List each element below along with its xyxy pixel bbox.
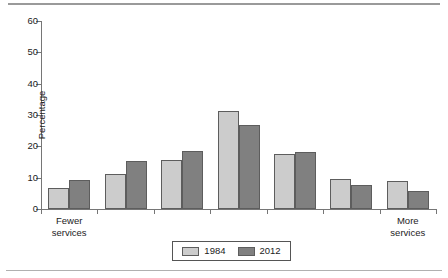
y-tick-label: 40 xyxy=(27,79,38,89)
y-tick-label: 10 xyxy=(27,173,38,183)
legend-swatch-2012 xyxy=(238,247,255,256)
x-category-label-line2: services xyxy=(380,227,436,239)
bar xyxy=(218,111,239,209)
bar-chart-figure: Percentage 0102030405060 FewerservicesMo… xyxy=(0,0,448,278)
bar xyxy=(126,161,147,209)
x-tick-mark xyxy=(210,209,211,214)
plot-area: Percentage 0102030405060 xyxy=(41,21,436,209)
x-axis-line xyxy=(41,209,437,210)
legend-swatch-1984 xyxy=(182,247,199,256)
bar xyxy=(69,180,90,209)
bar xyxy=(182,151,203,209)
x-category-label: Fewerservices xyxy=(41,215,97,238)
legend-label-1984: 1984 xyxy=(204,246,225,256)
x-tick-mark xyxy=(380,209,381,214)
y-tick-label: 20 xyxy=(27,142,38,152)
chart-legend: 1984 2012 xyxy=(172,241,291,261)
y-tick-label: 50 xyxy=(27,48,38,58)
top-divider-rule xyxy=(8,3,440,5)
legend-label-2012: 2012 xyxy=(260,246,281,256)
bar xyxy=(161,160,182,209)
legend-item-2012: 2012 xyxy=(238,246,281,256)
bottom-divider-rule xyxy=(6,270,442,271)
x-tick-mark xyxy=(154,209,155,214)
y-tick-label: 0 xyxy=(33,204,38,214)
y-tick-label: 60 xyxy=(27,16,38,26)
bar xyxy=(330,179,351,209)
bar xyxy=(274,154,295,209)
bar xyxy=(351,185,372,209)
bar xyxy=(295,152,316,209)
legend-item-1984: 1984 xyxy=(182,246,225,256)
y-tick-label: 30 xyxy=(27,110,38,120)
x-tick-mark xyxy=(436,209,437,214)
x-category-label-line1: Fewer xyxy=(41,215,97,227)
x-tick-mark xyxy=(97,209,98,214)
bar xyxy=(239,125,260,209)
x-tick-mark xyxy=(41,209,42,214)
x-category-label-line2: services xyxy=(41,227,97,239)
x-tick-mark xyxy=(267,209,268,214)
bar xyxy=(48,188,69,209)
bar xyxy=(105,174,126,209)
x-category-label-line1: More xyxy=(380,215,436,227)
bar xyxy=(408,191,429,209)
bar xyxy=(387,181,408,209)
x-category-label: Moreservices xyxy=(380,215,436,238)
x-tick-mark xyxy=(323,209,324,214)
